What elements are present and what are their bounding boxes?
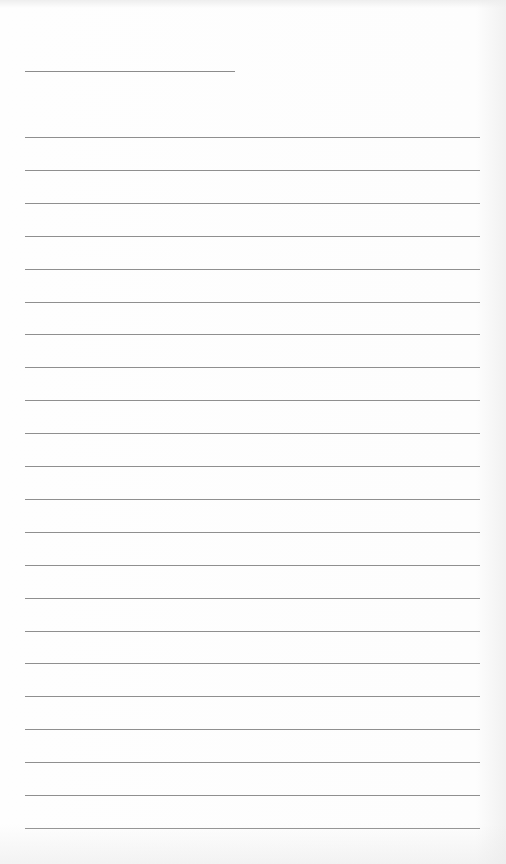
ruled-line <box>25 137 480 138</box>
ruled-line <box>25 663 480 664</box>
ruled-line <box>25 269 480 270</box>
ruled-line <box>25 631 480 632</box>
ruled-line <box>25 795 480 796</box>
lined-paper-page <box>0 0 506 864</box>
ruled-line <box>25 302 480 303</box>
bottom-edge-shadow <box>0 824 506 864</box>
top-edge-shadow <box>0 0 506 8</box>
ruled-line <box>25 466 480 467</box>
ruled-line <box>25 598 480 599</box>
ruled-line <box>25 334 480 335</box>
ruled-line <box>25 433 480 434</box>
ruled-line <box>25 499 480 500</box>
ruled-line <box>25 696 480 697</box>
ruled-line <box>25 532 480 533</box>
ruled-line <box>25 170 480 171</box>
ruled-line <box>25 729 480 730</box>
ruled-line <box>25 236 480 237</box>
ruled-line <box>25 203 480 204</box>
ruled-line <box>25 565 480 566</box>
title-line <box>25 71 235 72</box>
ruled-line <box>25 400 480 401</box>
ruled-line <box>25 762 480 763</box>
ruled-line <box>25 367 480 368</box>
